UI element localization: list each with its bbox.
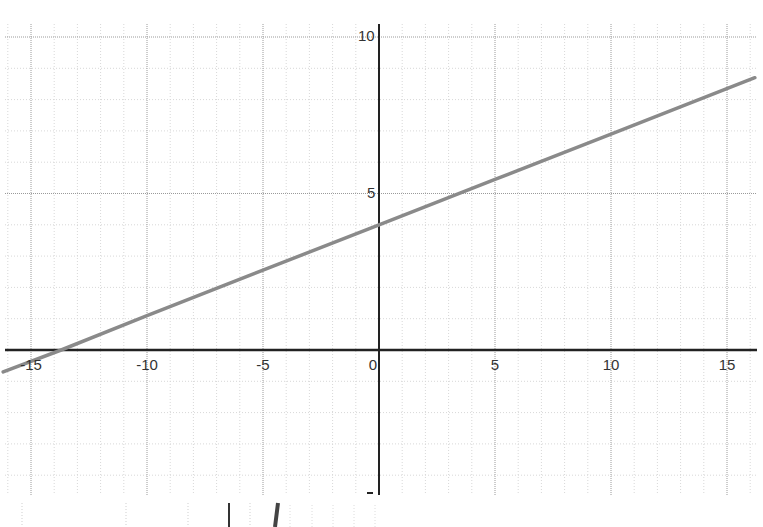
x-tick-label: 15	[719, 356, 736, 373]
x-tick-label: 5	[491, 356, 499, 373]
axes	[5, 24, 757, 495]
cropped-graph-fragment	[0, 497, 763, 527]
x-tick-label: 10	[603, 356, 620, 373]
x-tick-label: -10	[136, 356, 158, 373]
minor-grid	[5, 24, 757, 495]
y-tick-label: 10	[358, 27, 375, 44]
x-tick-label: 0	[369, 356, 377, 373]
x-tick-label: -5	[256, 356, 269, 373]
x-tick-label: -15	[20, 356, 42, 373]
y-tick-label: 5	[367, 184, 375, 201]
coordinate-plane	[0, 0, 763, 527]
major-grid	[5, 24, 757, 495]
